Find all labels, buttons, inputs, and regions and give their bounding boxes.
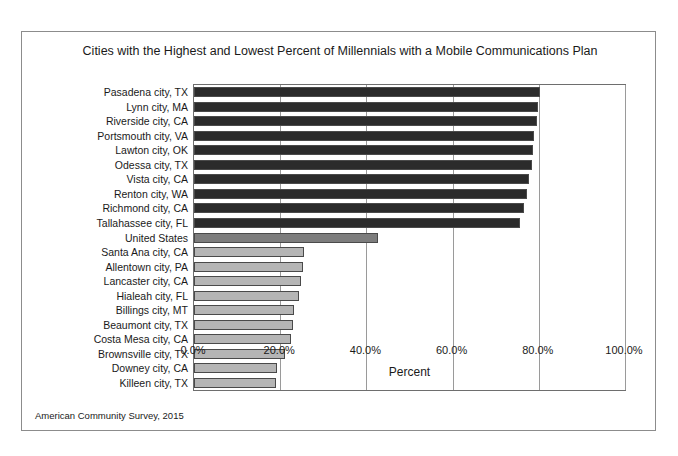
category-label: Beaumont city, TX — [103, 320, 188, 331]
bar-row: Costa Mesa city, CA — [194, 334, 625, 344]
category-label: Lawton city, OK — [115, 145, 188, 156]
category-label: Renton city, WA — [114, 189, 188, 200]
bar-row: Pasadena city, TX — [194, 87, 625, 97]
category-label: Riverside city, CA — [106, 116, 188, 127]
bar — [194, 247, 304, 257]
bar — [194, 291, 299, 301]
category-label: Richmond city, CA — [102, 203, 188, 214]
bar — [194, 174, 529, 184]
x-axis-title: Percent — [193, 365, 626, 379]
category-label: Killeen city, TX — [120, 378, 188, 389]
category-label: Tallahassee city, FL — [97, 218, 188, 229]
x-tick-label: 60.0% — [436, 344, 467, 356]
x-tick-label: 40.0% — [350, 344, 381, 356]
plot-area: Pasadena city, TXLynn city, MARiverside … — [193, 84, 626, 391]
bar — [194, 145, 533, 155]
x-tick-label: 0.0% — [180, 344, 205, 356]
bar-row: Allentown city, PA — [194, 262, 625, 272]
category-label: Hialeah city, FL — [116, 291, 188, 302]
category-label: Costa Mesa city, CA — [94, 334, 188, 345]
chart-figure: Cities with the Highest and Lowest Perce… — [21, 31, 656, 431]
bar-row: Santa Ana city, CA — [194, 247, 625, 257]
bar-row: Brownsville city, TX — [194, 349, 625, 359]
bar-row: Odessa city, TX — [194, 160, 625, 170]
source-note: American Community Survey, 2015 — [35, 410, 184, 421]
bar-row: Killeen city, TX — [194, 378, 625, 388]
chart-title: Cities with the Highest and Lowest Perce… — [62, 43, 618, 60]
x-tick-label: 80.0% — [522, 344, 553, 356]
bar-series: Pasadena city, TXLynn city, MARiverside … — [194, 85, 625, 390]
x-tick-label: 20.0% — [264, 344, 295, 356]
bar-row: Beaumont city, TX — [194, 320, 625, 330]
bar-row: Portsmouth city, VA — [194, 131, 625, 141]
category-label: Pasadena city, TX — [104, 87, 188, 98]
category-label: Allentown city, PA — [106, 262, 188, 273]
bar — [194, 262, 303, 272]
category-label: Lancaster city, CA — [104, 276, 188, 287]
category-label: Portsmouth city, VA — [97, 131, 188, 142]
bar — [194, 131, 534, 141]
bar-row: Vista city, CA — [194, 174, 625, 184]
bar — [194, 189, 527, 199]
bar — [194, 233, 378, 243]
bar-row: Lancaster city, CA — [194, 276, 625, 286]
bar — [194, 334, 291, 344]
bar — [194, 378, 276, 388]
bar-row: Renton city, WA — [194, 189, 625, 199]
bar-row: Billings city, MT — [194, 305, 625, 315]
bar — [194, 102, 538, 112]
category-label: United States — [125, 233, 188, 244]
category-label: Lynn city, MA — [126, 102, 188, 113]
category-label: Vista city, CA — [127, 174, 188, 185]
bar-row: Tallahassee city, FL — [194, 218, 625, 228]
bar — [194, 276, 301, 286]
bar-row: Richmond city, CA — [194, 203, 625, 213]
bar-row: Riverside city, CA — [194, 116, 625, 126]
category-label: Brownsville city, TX — [98, 349, 188, 360]
bar — [194, 305, 294, 315]
category-label: Odessa city, TX — [115, 160, 188, 171]
bar-row: Lawton city, OK — [194, 145, 625, 155]
bar-row: Lynn city, MA — [194, 102, 625, 112]
bar — [194, 203, 524, 213]
bar — [194, 218, 520, 228]
bar-row: United States — [194, 233, 625, 243]
bar — [194, 116, 537, 126]
bar-row: Hialeah city, FL — [194, 291, 625, 301]
category-label: Santa Ana city, CA — [101, 247, 188, 258]
bar — [194, 160, 532, 170]
bar — [194, 87, 540, 97]
category-label: Billings city, MT — [116, 305, 188, 316]
x-tick-label: 100.0% — [605, 344, 642, 356]
bar — [194, 320, 293, 330]
category-label: Downey city, CA — [112, 363, 188, 374]
